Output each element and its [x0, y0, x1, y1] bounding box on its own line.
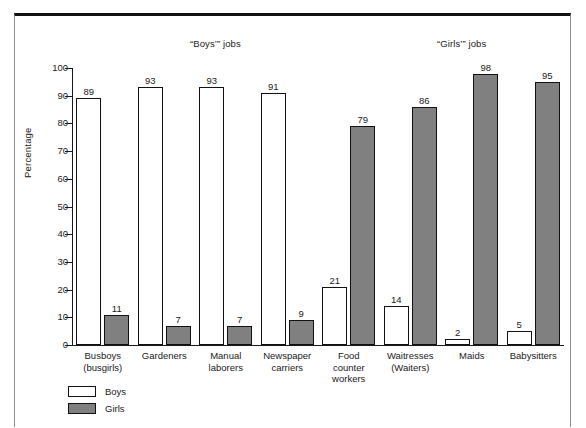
category-label-6: Maids [441, 350, 503, 362]
bar-boys-2: 93 [199, 87, 224, 345]
bar-boys-0: 89 [76, 98, 101, 345]
category-label-7: Babysitters [503, 350, 565, 362]
y-tick-label: 20 [57, 284, 68, 295]
category-label-0: Busboys (busgirls) [72, 350, 134, 373]
y-tick-label: 70 [57, 145, 68, 156]
legend-swatch-girls [68, 403, 96, 414]
category-label-2: Manual laborers [195, 350, 257, 373]
bar-value-label: 79 [357, 114, 368, 125]
bar-value-label: 98 [480, 62, 491, 73]
bar-boys-7: 5 [507, 331, 532, 345]
y-tick-label: 80 [57, 117, 68, 128]
bar-value-label: 9 [299, 308, 304, 319]
legend-swatch-boys [68, 386, 96, 397]
category-label-5: Waitresses (Waiters) [380, 350, 442, 373]
bar-value-label: 86 [419, 95, 430, 106]
legend-label-girls: Girls [105, 403, 125, 414]
bar-boys-6: 2 [445, 339, 470, 345]
category-label-4: Food counter workers [318, 350, 380, 385]
bar-value-label: 7 [237, 314, 242, 325]
bar-boys-4: 21 [322, 287, 347, 345]
y-tick-label: 100 [52, 62, 68, 73]
bar-boys-3: 91 [261, 93, 286, 345]
bar-girls-6: 98 [473, 74, 498, 345]
plot-area: 1009080706050403020100 89119379379192179… [72, 68, 564, 345]
bar-girls-5: 86 [412, 107, 437, 345]
y-tick-label: 10 [57, 311, 68, 322]
bar-value-label: 93 [145, 75, 156, 86]
category-label-3: Newspaper carriers [257, 350, 319, 373]
bar-value-label: 14 [391, 294, 402, 305]
legend-item-boys: Boys [68, 384, 126, 399]
x-axis-line [72, 345, 564, 346]
section-title-boys: “Boys’” jobs [190, 38, 241, 49]
bar-value-label: 7 [176, 314, 181, 325]
bar-boys-5: 14 [384, 306, 409, 345]
bar-value-label: 2 [455, 327, 460, 338]
bar-value-label: 89 [83, 86, 94, 97]
bar-girls-7: 95 [535, 82, 560, 345]
section-title-girls: “Girls’” jobs [437, 38, 486, 49]
bar-girls-2: 7 [227, 326, 252, 345]
y-tick-label: 30 [57, 256, 68, 267]
bar-girls-3: 9 [289, 320, 314, 345]
chart-legend: BoysGirls [68, 384, 126, 418]
bar-value-label: 91 [268, 81, 279, 92]
bar-value-label: 21 [329, 275, 340, 286]
bar-value-label: 5 [517, 319, 522, 330]
category-label-1: Gardeners [134, 350, 196, 362]
bar-girls-4: 79 [350, 126, 375, 345]
bar-boys-1: 93 [138, 87, 163, 345]
y-tick-label: 90 [57, 90, 68, 101]
y-tick-label: 50 [57, 201, 68, 212]
legend-label-boys: Boys [105, 386, 126, 397]
legend-item-girls: Girls [68, 401, 126, 416]
y-tick-label: 0 [63, 339, 68, 350]
bar-value-label: 95 [542, 70, 553, 81]
bar-girls-1: 7 [166, 326, 191, 345]
bar-value-label: 93 [206, 75, 217, 86]
y-axis-title: Percentage [22, 127, 33, 178]
bar-value-label: 11 [112, 303, 122, 314]
bar-girls-0: 11 [104, 315, 129, 345]
y-tick-label: 40 [57, 228, 68, 239]
y-tick-label: 60 [57, 173, 68, 184]
